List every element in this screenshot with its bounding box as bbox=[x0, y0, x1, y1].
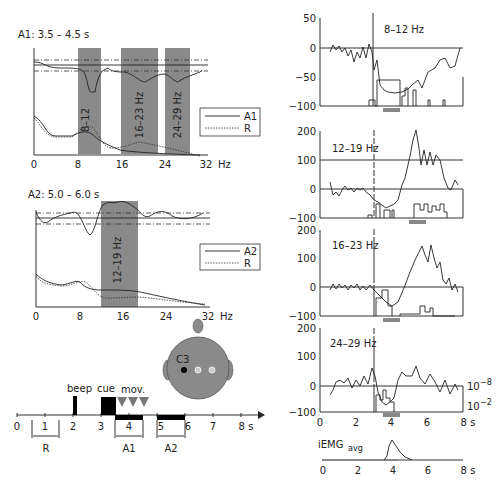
y-tick: 100 bbox=[297, 253, 316, 264]
band-label: 16–23 Hz bbox=[134, 92, 145, 138]
head-diagram: C3 bbox=[163, 319, 233, 399]
erd-panel-16-23: 16–23 Hz 200 100 0 −100 bbox=[289, 225, 463, 322]
event-label: cue bbox=[97, 383, 115, 394]
x-tick: 24 bbox=[159, 159, 172, 170]
band-label: 8–12 Hz bbox=[384, 24, 424, 35]
t-tick: 5 bbox=[158, 421, 164, 432]
t-tick: 1 bbox=[42, 421, 48, 432]
legend-label: R bbox=[244, 123, 251, 134]
interval-label: A1 bbox=[122, 443, 135, 454]
electrode-c3 bbox=[181, 367, 187, 373]
band-label: 12–19 Hz bbox=[112, 237, 123, 283]
x-tick: 4 bbox=[388, 417, 394, 428]
x-tick: 16 bbox=[117, 311, 130, 322]
y-tick: 0 bbox=[310, 43, 316, 54]
t-tick: 4 bbox=[126, 421, 132, 432]
x-tick: 0 bbox=[320, 465, 326, 476]
t-tick: 0 bbox=[14, 421, 20, 432]
legend-label: A2 bbox=[244, 246, 257, 257]
a2-bar bbox=[157, 415, 185, 420]
p-tick: 10 bbox=[467, 381, 480, 392]
x-tick: 6 bbox=[425, 465, 431, 476]
legend-label: A1 bbox=[244, 111, 257, 122]
y-tick: 0 bbox=[310, 282, 316, 293]
x-tick: 4 bbox=[390, 465, 396, 476]
iemg-panel: iEMG avg 0 2 4 6 8 s bbox=[318, 439, 475, 476]
x-tick: 2 bbox=[353, 417, 359, 428]
y-tick: −100 bbox=[289, 101, 316, 112]
event-label: mov. bbox=[121, 384, 145, 395]
a1-bar bbox=[115, 415, 143, 420]
erd-panel-8-12: 8–12 Hz 50 0 −50 −100 bbox=[289, 13, 463, 112]
t-tick: 3 bbox=[98, 421, 104, 432]
erd-panel-24-29: 24–29 Hz 200 100 0 −100 10 −8 10 −2 0 2 … bbox=[289, 323, 492, 428]
x-tick: 8 s bbox=[461, 417, 476, 428]
band-label: 12–19 Hz bbox=[332, 143, 378, 154]
p-tick-exp: −8 bbox=[480, 378, 492, 387]
x-tick: 0 bbox=[317, 417, 323, 428]
y-tick: 100 bbox=[297, 155, 316, 166]
x-tick: 8 bbox=[77, 311, 83, 322]
x-tick: 2 bbox=[355, 465, 361, 476]
t-tick: 2 bbox=[70, 421, 76, 432]
y-tick: 0 bbox=[310, 381, 316, 392]
panel-a1-title: A1: 3.5 – 4.5 s bbox=[18, 29, 89, 40]
erd-panel-12-19: 12–19 Hz 200 100 0 −100 bbox=[289, 126, 463, 224]
x-unit: Hz bbox=[218, 159, 231, 170]
x-tick: 16 bbox=[116, 159, 129, 170]
y-tick: 200 bbox=[297, 225, 316, 236]
band-label: 16–23 Hz bbox=[332, 240, 378, 251]
y-tick: 200 bbox=[297, 126, 316, 137]
x-tick: 24 bbox=[160, 311, 173, 322]
y-tick: −100 bbox=[289, 311, 316, 322]
y-tick: 50 bbox=[303, 13, 316, 24]
iemg-sub: avg bbox=[348, 444, 363, 453]
y-tick: 100 bbox=[297, 351, 316, 362]
y-tick: −100 bbox=[289, 213, 316, 224]
t-tick: 7 bbox=[210, 421, 216, 432]
panel-a2: A2: 5.0 – 6.0 s 12–19 Hz A2 R 0 8 16 24 … bbox=[28, 189, 260, 322]
interval-label: A2 bbox=[164, 443, 177, 454]
x-tick: 0 bbox=[33, 311, 39, 322]
y-tick: −50 bbox=[295, 72, 316, 83]
p-tick-exp: −2 bbox=[480, 398, 492, 407]
p-tick: 10 bbox=[467, 401, 480, 412]
trial-timeline: beep cue mov. 0 1 2 3 4 5 6 7 8 s R A1 A… bbox=[14, 383, 265, 454]
x-tick: 32 bbox=[202, 311, 215, 322]
x-unit: Hz bbox=[220, 311, 233, 322]
y-tick: 200 bbox=[297, 323, 316, 334]
electrode-label: C3 bbox=[176, 354, 189, 365]
band-label: 8–12 bbox=[80, 108, 91, 132]
cue-marker bbox=[101, 397, 116, 415]
event-label: beep bbox=[67, 383, 92, 394]
t-tick: 8 s bbox=[239, 421, 254, 432]
t-tick: 6 bbox=[185, 421, 191, 432]
y-tick: 0 bbox=[310, 184, 316, 195]
band-label: 24–29 Hz bbox=[330, 338, 376, 349]
panel-a1: A1: 3.5 – 4.5 s 8–12 16–23 Hz 24–29 Hz A… bbox=[18, 29, 260, 170]
legend-label: R bbox=[244, 258, 251, 269]
beep-marker bbox=[73, 396, 77, 415]
x-tick: 0 bbox=[31, 159, 37, 170]
x-tick: 6 bbox=[424, 417, 430, 428]
x-tick: 8 s bbox=[461, 465, 476, 476]
figure: A1: 3.5 – 4.5 s 8–12 16–23 Hz 24–29 Hz A… bbox=[0, 0, 500, 493]
iemg-label: iEMG bbox=[318, 439, 343, 450]
band-label: 24–29 Hz bbox=[172, 92, 183, 138]
x-tick: 8 bbox=[75, 159, 81, 170]
x-tick: 32 bbox=[200, 159, 213, 170]
y-tick: −100 bbox=[289, 407, 316, 418]
interval-label: R bbox=[43, 443, 50, 454]
panel-a2-title: A2: 5.0 – 6.0 s bbox=[28, 189, 99, 200]
